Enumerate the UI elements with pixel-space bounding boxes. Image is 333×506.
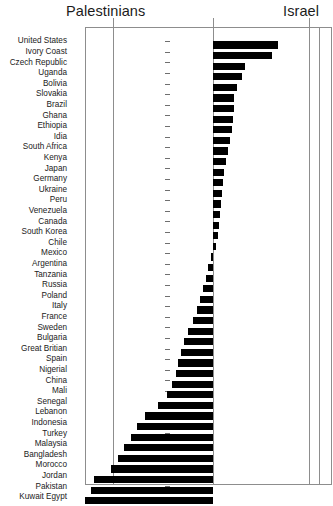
bar: [137, 423, 213, 430]
bar-row-label: Venezuela: [29, 206, 67, 215]
bar-row-tick: [165, 253, 170, 254]
bar-row: Argentina: [86, 263, 319, 274]
bar: [118, 455, 213, 462]
bar-row-tick: [165, 338, 170, 339]
bar-row-label: Great Britian: [21, 344, 67, 353]
plot-area: United StatesIvory CoastCzech RepublicUg…: [85, 27, 320, 485]
bar-row-tick: [165, 200, 170, 201]
bar-row: Slovakia: [86, 93, 319, 104]
bar: [206, 275, 213, 282]
bar-row-label: Turkey: [42, 429, 67, 438]
bar: [213, 137, 230, 144]
bar: [197, 306, 213, 313]
bar: [91, 487, 213, 494]
bar: [158, 402, 213, 409]
bar: [213, 169, 224, 176]
bar-row-label: Morocco: [36, 460, 67, 469]
bar-row-tick: [165, 243, 170, 244]
bar-row-label: China: [46, 376, 67, 385]
bar-row: Mexico: [86, 252, 319, 263]
bar: [178, 359, 213, 366]
bar-row: Brazil: [86, 104, 319, 115]
bar-row-label: Japan: [45, 164, 67, 173]
bar: [203, 285, 213, 292]
bar-row-label: Mali: [52, 386, 67, 395]
bar-row: Spain: [86, 358, 319, 369]
bar-row-tick: [165, 84, 170, 85]
bar-row: Ukraine: [86, 188, 319, 199]
bar-row: Peru: [86, 199, 319, 210]
bar-row: China: [86, 379, 319, 390]
bar-row: Canada: [86, 220, 319, 231]
bar-row-tick: [165, 41, 170, 42]
bar-row-tick: [165, 179, 170, 180]
bar-row: Chile: [86, 241, 319, 252]
bar-row-tick: [165, 285, 170, 286]
bar-row-label: Czech Republic: [10, 58, 67, 67]
bar-row: Mali: [86, 390, 319, 401]
bar-row-tick: [165, 73, 170, 74]
bar: [213, 94, 234, 101]
bar-row-label: Uganda: [38, 68, 67, 77]
bar: [213, 73, 242, 80]
bar-row: Pakistan: [86, 485, 319, 496]
bar-row-tick: [165, 147, 170, 148]
bar-row-tick: [165, 317, 170, 318]
bar-row: Tanzania: [86, 273, 319, 284]
bar-row-tick: [165, 327, 170, 328]
bar-row: United States: [86, 40, 319, 51]
bar: [213, 105, 234, 112]
bar-row-label: Argentina: [32, 259, 67, 268]
bar: [213, 158, 226, 165]
bar-row: Ivory Coast: [86, 51, 319, 62]
bar: [213, 116, 233, 123]
bar-row: Sweden: [86, 326, 319, 337]
bar: [211, 253, 213, 260]
pole-label-israel: Israel: [283, 3, 319, 19]
bar: [213, 211, 220, 218]
bar-row-label: Kenya: [44, 153, 67, 162]
bar-row-tick: [165, 105, 170, 106]
bar-row-label: South Africa: [23, 142, 67, 151]
bar-row-label: Sweden: [37, 323, 67, 332]
bar: [213, 41, 278, 48]
bar-row-label: Pakistan: [36, 482, 67, 491]
bar: [208, 264, 213, 271]
plot-right-margin-box: [320, 27, 332, 485]
bar: [131, 434, 213, 441]
top-tick-left: [113, 18, 114, 27]
bar: [193, 317, 213, 324]
bar: [213, 52, 272, 59]
bar-row: Russia: [86, 284, 319, 295]
bar-row-label: Kuwait Egypt: [19, 492, 67, 501]
bar-row: Jordan: [86, 475, 319, 486]
bar: [111, 465, 213, 472]
bar-row-label: Bangladesh: [24, 450, 67, 459]
bar-row-tick: [165, 115, 170, 116]
pole-label-palestinians: Palestinians: [66, 3, 145, 19]
bar-row-tick: [165, 190, 170, 191]
bar: [213, 63, 245, 70]
bar-row: Indonesia: [86, 422, 319, 433]
bar-row: Senegal: [86, 400, 319, 411]
bar-row-label: France: [42, 312, 67, 321]
bar-row: Venezuela: [86, 210, 319, 221]
bar-row-label: Poland: [42, 291, 68, 300]
bar-row-label: Lebanon: [35, 407, 67, 416]
bar-row-label: Slovakia: [36, 89, 67, 98]
bar-row-tick: [165, 62, 170, 63]
top-tick-center: [213, 18, 214, 27]
bar: [94, 476, 213, 483]
bar-row-label: Peru: [50, 195, 67, 204]
bar-row: Kuwait Egypt: [86, 496, 319, 506]
top-tick-right: [309, 18, 310, 27]
bar-row-label: Spain: [46, 354, 67, 363]
bar-row-label: Bolivia: [43, 79, 67, 88]
bar: [85, 497, 213, 504]
bar-row: Japan: [86, 167, 319, 178]
bar-row-label: Idia: [54, 132, 67, 141]
bar-row: Kenya: [86, 157, 319, 168]
bar-row: Uganda: [86, 72, 319, 83]
bar: [213, 147, 228, 154]
